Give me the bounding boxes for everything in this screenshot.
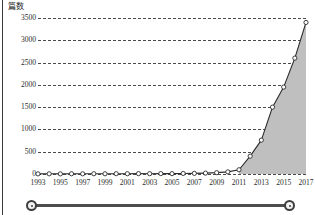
plot-area	[38, 18, 306, 174]
y-tick-label: 500	[2, 148, 36, 156]
data-point-marker[interactable]	[259, 138, 263, 142]
x-tick-label: 1997	[71, 178, 95, 187]
range-end-handle[interactable]	[284, 200, 295, 211]
data-point-marker[interactable]	[114, 172, 118, 176]
data-point-marker[interactable]	[293, 56, 297, 60]
x-tick-label: 2007	[182, 178, 206, 187]
area-fill	[239, 22, 306, 174]
x-tick-label: 1999	[93, 178, 117, 187]
chart-container: 篇数 0500100015002000250030003500 19931995…	[0, 0, 315, 215]
data-point-marker[interactable]	[81, 172, 85, 176]
x-tick-label: 1995	[48, 178, 72, 187]
data-point-marker[interactable]	[92, 172, 96, 176]
x-tick-label: 2003	[138, 178, 162, 187]
y-tick-label: 3000	[2, 36, 36, 44]
data-point-marker[interactable]	[69, 172, 73, 176]
y-axis-tick-labels: 0500100015002000250030003500	[0, 18, 36, 174]
x-tick-label: 2001	[115, 178, 139, 187]
x-tick-label: 2017	[294, 178, 315, 187]
data-point-marker[interactable]	[248, 154, 252, 158]
x-tick-label: 2005	[160, 178, 184, 187]
y-tick-label: 0	[2, 170, 36, 178]
data-point-marker[interactable]	[226, 170, 230, 174]
data-point-marker[interactable]	[125, 172, 129, 176]
x-tick-label: 1993	[26, 178, 50, 187]
x-tick-label: 2009	[205, 178, 229, 187]
range-start-handle[interactable]	[26, 200, 37, 211]
x-axis-tick-labels: 1993199519971999200120032005200720092011…	[38, 178, 306, 189]
data-point-marker[interactable]	[58, 172, 62, 176]
data-point-marker[interactable]	[159, 171, 163, 175]
data-point-marker[interactable]	[148, 172, 152, 176]
range-scrollbar[interactable]	[26, 199, 296, 213]
x-tick-label: 2015	[272, 178, 296, 187]
data-point-marker[interactable]	[270, 105, 274, 109]
y-tick-label: 2000	[2, 81, 36, 89]
y-axis-title: 篇数	[8, 2, 24, 12]
data-point-marker[interactable]	[215, 171, 219, 175]
data-point-marker[interactable]	[192, 171, 196, 175]
x-tick-label: 2013	[249, 178, 273, 187]
data-point-marker[interactable]	[304, 20, 308, 24]
data-point-marker[interactable]	[47, 172, 51, 176]
data-point-marker[interactable]	[282, 85, 286, 89]
data-point-marker[interactable]	[103, 172, 107, 176]
data-point-marker[interactable]	[170, 172, 174, 176]
x-tick-label: 2011	[227, 178, 251, 187]
y-tick-label: 3500	[2, 14, 36, 22]
data-point-marker[interactable]	[237, 168, 241, 172]
y-tick-label: 1500	[2, 103, 36, 111]
data-point-marker[interactable]	[36, 172, 40, 176]
y-tick-label: 1000	[2, 125, 36, 133]
data-point-marker[interactable]	[136, 172, 140, 176]
data-series-layer	[38, 18, 306, 174]
data-point-marker[interactable]	[181, 171, 185, 175]
y-tick-label: 2500	[2, 59, 36, 67]
scrollbar-track[interactable]	[32, 204, 290, 207]
data-point-marker[interactable]	[203, 171, 207, 175]
